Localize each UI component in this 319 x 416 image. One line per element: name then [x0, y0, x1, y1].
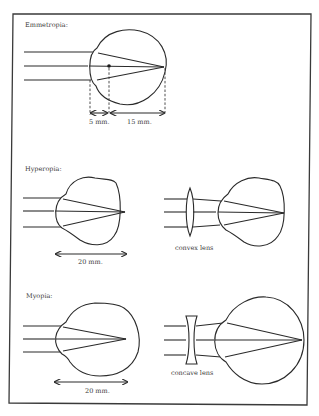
dimension-label-20mm: 20 mm.: [78, 258, 103, 266]
dimension-label-15mm: 15 mm.: [127, 118, 152, 126]
nodal-point: [107, 64, 111, 68]
convex-lens-label: convex lens: [175, 244, 213, 252]
convex-lens: [186, 188, 194, 236]
incoming-rays: [24, 52, 93, 80]
incoming-rays-corrected: [164, 199, 188, 227]
panel-hyperopia: Hyperopia: 20 mm.: [23, 165, 284, 266]
panel-myopia: Myopia: 20 mm.: [23, 292, 304, 395]
dimension-label-20mm: 20 mm.: [85, 387, 110, 395]
dimension-label-5mm: 5 mm.: [89, 118, 110, 126]
concave-lens: [186, 316, 197, 364]
panel-title: Hyperopia:: [25, 165, 62, 173]
converging-rays: [193, 199, 221, 227]
eye-refraction-diagram: Emmetropia: 5 mm. 15 mm. Hyperopia:: [0, 0, 319, 416]
panel-title: Myopia:: [26, 292, 53, 300]
incoming-rays-corrected: [164, 326, 186, 355]
panel-title: Emmetropia:: [25, 21, 68, 29]
panel-emmetropia: Emmetropia: 5 mm. 15 mm.: [24, 21, 166, 126]
concave-lens-label: concave lens: [171, 369, 213, 377]
